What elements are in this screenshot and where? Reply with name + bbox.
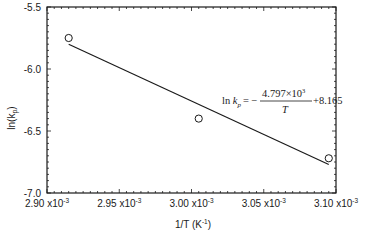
y-tick-label: -6.0: [24, 64, 42, 75]
x-tick-label: 3.10 x10-3: [314, 197, 359, 209]
equation-annotation: ln kp= − 4.797×103 T +8.165: [222, 87, 343, 115]
svg-text:ln kp= −: ln kp= −: [222, 95, 258, 109]
fit-line: [69, 44, 329, 164]
x-tick-label: 2.95 x10-3: [97, 197, 142, 209]
y-tick-labels: -5.5-6.0-6.5-7.0: [24, 2, 42, 199]
x-axis-title: 1/T (K-1): [175, 218, 211, 230]
x-tick-labels: 2.90 x10-32.95 x10-33.00 x10-33.05 x10-3…: [25, 197, 359, 209]
chart-svg: -5.5-6.0-6.5-7.0 2.90 x10-32.95 x10-33.0…: [0, 0, 368, 244]
y-axis-title: ln(kp): [6, 106, 19, 129]
axis-ticks: [47, 7, 336, 193]
svg-text:T: T: [282, 104, 289, 115]
x-tick-label: 3.00 x10-3: [169, 197, 214, 209]
plot-frame: [47, 7, 336, 193]
data-point-marker: [325, 155, 332, 162]
data-point-marker: [65, 34, 72, 41]
y-tick-label: -6.5: [24, 126, 42, 137]
x-tick-label: 2.90 x10-3: [25, 197, 70, 209]
y-tick-label: -5.5: [24, 2, 42, 13]
data-point-marker: [195, 115, 202, 122]
svg-text:4.797×103: 4.797×103: [262, 87, 305, 99]
x-tick-label: 3.05 x10-3: [242, 197, 287, 209]
svg-text:+8.165: +8.165: [313, 95, 343, 106]
